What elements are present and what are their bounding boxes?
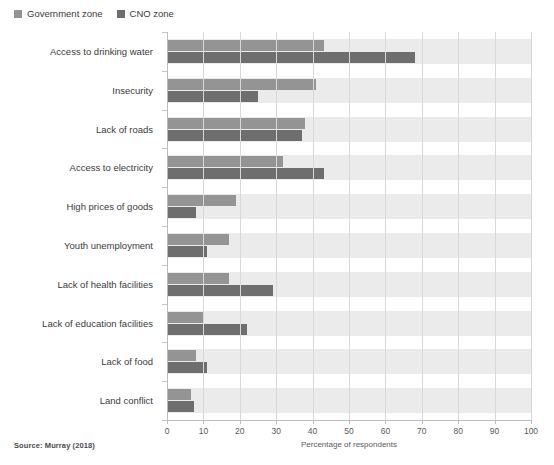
gridline-80 xyxy=(458,32,459,420)
gridline-10 xyxy=(203,32,204,420)
bar-government-zone xyxy=(167,312,203,323)
category-label: Lack of health facilities xyxy=(57,279,153,290)
x-tick-label: 90 xyxy=(490,426,499,436)
x-tick-80 xyxy=(458,420,459,424)
bar-government-zone xyxy=(167,273,229,284)
x-tick-label: 20 xyxy=(235,426,244,436)
x-tick-20 xyxy=(240,420,241,424)
x-tick-60 xyxy=(385,420,386,424)
gridline-100 xyxy=(531,32,532,420)
legend-item-government-zone: Government zone xyxy=(14,8,103,19)
gridline-70 xyxy=(422,32,423,420)
bar-cno-zone xyxy=(167,324,247,335)
x-tick-30 xyxy=(276,420,277,424)
x-tick-10 xyxy=(203,420,204,424)
bar-chart: Access to drinking waterInsecurityLack o… xyxy=(0,26,554,426)
bar-government-zone xyxy=(167,118,305,129)
category-label: High prices of goods xyxy=(66,201,153,212)
x-tick-70 xyxy=(422,420,423,424)
bar-government-zone xyxy=(167,234,229,245)
bar-government-zone xyxy=(167,79,316,90)
legend-item-cno-zone: CNO zone xyxy=(117,8,174,19)
gridline-20 xyxy=(240,32,241,420)
category-label: Land conflict xyxy=(100,395,153,406)
legend-label-cno-zone: CNO zone xyxy=(130,8,174,19)
bar-cno-zone xyxy=(167,362,207,373)
x-tick-label: 70 xyxy=(417,426,426,436)
x-tick-label: 100 xyxy=(524,426,538,436)
x-tick-label: 50 xyxy=(344,426,353,436)
bar-cno-zone xyxy=(167,207,196,218)
bar-government-zone xyxy=(167,40,324,51)
category-axis: Access to drinking waterInsecurityLack o… xyxy=(0,32,167,420)
chart-legend: Government zone CNO zone xyxy=(14,8,174,19)
x-tick-label: 40 xyxy=(308,426,317,436)
gridline-30 xyxy=(276,32,277,420)
x-tick-label: 30 xyxy=(271,426,280,436)
y-axis-line xyxy=(167,32,168,420)
x-tick-label: 80 xyxy=(453,426,462,436)
x-axis-title: Percentage of respondents xyxy=(167,440,531,449)
bar-government-zone xyxy=(167,389,191,400)
bar-government-zone xyxy=(167,195,236,206)
bar-government-zone xyxy=(167,350,196,361)
gridline-60 xyxy=(385,32,386,420)
bar-cno-zone xyxy=(167,130,302,141)
gridline-90 xyxy=(495,32,496,420)
legend-swatch-cno-zone xyxy=(117,10,125,18)
x-tick-0 xyxy=(167,420,168,424)
category-label: Access to electricity xyxy=(70,162,153,173)
bar-cno-zone xyxy=(167,91,258,102)
category-label: Lack of education facilities xyxy=(42,318,153,329)
plot-area xyxy=(167,32,531,420)
x-tick-100 xyxy=(531,420,532,424)
bar-cno-zone xyxy=(167,401,194,412)
bar-cno-zone xyxy=(167,246,207,257)
x-tick-label: 60 xyxy=(381,426,390,436)
category-label: Insecurity xyxy=(112,85,153,96)
category-label: Lack of roads xyxy=(96,124,153,135)
gridline-50 xyxy=(349,32,350,420)
x-tick-label: 0 xyxy=(165,426,170,436)
legend-label-government-zone: Government zone xyxy=(27,8,103,19)
gridline-40 xyxy=(313,32,314,420)
x-tick-50 xyxy=(349,420,350,424)
bar-government-zone xyxy=(167,156,283,167)
category-label: Lack of food xyxy=(101,356,153,367)
x-tick-90 xyxy=(495,420,496,424)
category-label: Youth unemployment xyxy=(64,240,153,251)
x-tick-label: 10 xyxy=(199,426,208,436)
legend-swatch-government-zone xyxy=(14,10,22,18)
x-tick-40 xyxy=(313,420,314,424)
category-label: Access to drinking water xyxy=(50,46,153,57)
bar-cno-zone xyxy=(167,168,324,179)
bar-cno-zone xyxy=(167,285,273,296)
source-note: Source: Murray (2018) xyxy=(14,441,95,450)
